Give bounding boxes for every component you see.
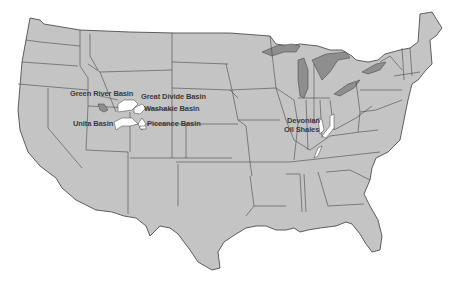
label-devonian: Devonian bbox=[287, 117, 320, 125]
label-great-divide-basin: Great Divide Basin bbox=[141, 93, 206, 101]
deposit-piceance-small bbox=[140, 126, 146, 129]
label-washakie-basin: Washakie Basin bbox=[144, 105, 199, 113]
label-oil-shales: Oil Shales bbox=[284, 126, 319, 134]
label-unita-basin: Unita Basin bbox=[73, 120, 113, 128]
label-green-river-basin: Green River Basin bbox=[70, 90, 133, 98]
label-piceance-basin: Piceance Basin bbox=[147, 120, 201, 128]
us-oil-shale-map: Green River Basin Great Divide Basin Was… bbox=[0, 0, 454, 281]
us-landmass bbox=[18, 12, 442, 270]
us-map-graphic bbox=[0, 0, 454, 281]
